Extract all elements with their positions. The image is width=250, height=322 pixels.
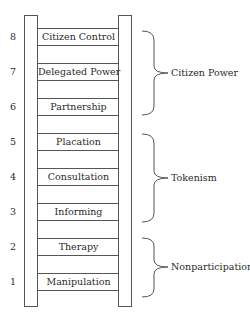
rung-line	[38, 80, 119, 81]
level-number-8: 8	[8, 28, 18, 45]
ladder-left-rail	[24, 15, 38, 307]
brace-citizen-power-icon	[140, 30, 172, 116]
level-number-4: 4	[8, 168, 18, 185]
rung-label-delegated-power: Delegated Power	[38, 63, 119, 80]
rung-label-consultation: Consultation	[38, 168, 119, 185]
group-label-nonparticipation: Nonparticipation	[171, 261, 250, 273]
rung-label-partnership: Partnership	[38, 98, 119, 115]
rung-line	[38, 115, 119, 116]
rung-label-informing: Informing	[38, 203, 119, 220]
level-number-1: 1	[8, 273, 18, 290]
rung-line	[38, 185, 119, 186]
level-number-5: 5	[8, 133, 18, 150]
rung-line	[38, 290, 119, 291]
level-number-7: 7	[8, 63, 18, 80]
rung-label-citizen-control: Citizen Control	[38, 28, 119, 45]
rung-label-manipulation: Manipulation	[38, 273, 119, 290]
ladder-right-rail	[118, 15, 132, 307]
level-number-6: 6	[8, 98, 18, 115]
rung-label-placation: Placation	[38, 133, 119, 150]
group-label-citizen-power: Citizen Power	[171, 67, 238, 79]
group-label-tokenism: Tokenism	[171, 172, 217, 184]
brace-tokenism-icon	[140, 133, 172, 223]
rung-line	[38, 45, 119, 46]
level-number-3: 3	[8, 203, 18, 220]
rung-line	[38, 220, 119, 221]
rung-line	[38, 150, 119, 151]
rung-line	[38, 255, 119, 256]
rung-label-therapy: Therapy	[38, 238, 119, 255]
ladder-diagram: 8 7 6 5 4 3 2 1 Citizen Control Delegate…	[0, 0, 250, 322]
brace-nonparticipation-icon	[140, 237, 172, 298]
level-number-2: 2	[8, 238, 18, 255]
